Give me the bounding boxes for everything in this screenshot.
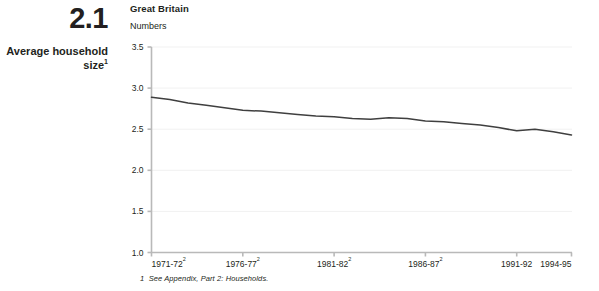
plot-area: 1.01.52.02.53.03.5 1971-7221976-7721981-…: [0, 0, 599, 291]
y-tick-label: 3.0: [132, 83, 144, 93]
gridlines: [152, 47, 573, 253]
x-tick-label: 1994-95: [540, 259, 571, 269]
x-tick-label: 1976-772: [226, 256, 260, 269]
line-chart-svg: 1.01.52.02.53.03.5 1971-7221976-7721981-…: [0, 0, 599, 291]
footnote-text: See Appendix, Part 2: Households.: [149, 274, 269, 283]
x-tick-label: 1981-822: [317, 256, 351, 269]
x-tick-label: 1986-872: [408, 256, 442, 269]
footnote-marker: 1: [140, 274, 144, 283]
footnote: 1 See Appendix, Part 2: Households.: [140, 274, 268, 283]
y-tick-label: 1.0: [132, 248, 144, 258]
y-tick-label: 1.5: [132, 206, 144, 216]
x-tick-label: 1971-722: [152, 256, 186, 269]
y-tick-label: 3.5: [132, 42, 144, 52]
x-axis-labels: 1971-7221976-7721981-8221986-8721991-921…: [152, 256, 572, 269]
y-tick-label: 2.0: [132, 165, 144, 175]
chart-page: 2.1 Average household size1 Great Britai…: [0, 0, 599, 291]
x-tick-label: 1991-92: [501, 259, 532, 269]
y-axis-labels: 1.01.52.02.53.03.5: [132, 42, 144, 258]
y-tick-label: 2.5: [132, 124, 144, 134]
